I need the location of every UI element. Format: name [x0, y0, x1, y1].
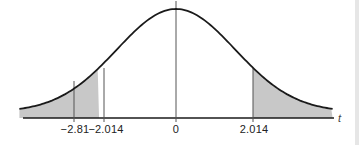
axis-variable-label: t [338, 112, 341, 124]
tick-label-pos-2-014: 2.014 [240, 123, 269, 135]
tick-label-zero: 0 [173, 123, 179, 135]
left-tail-shaded-region [19, 69, 99, 118]
right-tail-shaded-region [253, 68, 333, 118]
tick-label-neg-2-81: −2.81 [61, 123, 90, 135]
t-distribution-chart [0, 0, 359, 145]
right-border [355, 0, 359, 145]
tick-label-neg-2-014: −2.014 [88, 123, 123, 135]
